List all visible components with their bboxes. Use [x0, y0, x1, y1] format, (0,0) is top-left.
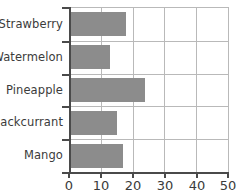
gridline-horizontal	[69, 74, 228, 75]
x-axis-tick-label: 0	[65, 178, 73, 193]
chart-title	[69, 0, 229, 5]
plot-area	[69, 8, 228, 172]
category-label: Watermelon	[0, 41, 63, 74]
plot-right-border	[228, 7, 229, 173]
category-label: Blackcurrant	[0, 106, 63, 139]
y-axis-line	[69, 7, 71, 173]
bar-blackcurrant	[69, 111, 117, 135]
x-axis-line	[68, 172, 229, 174]
y-axis-tick	[62, 41, 70, 43]
x-axis-tick-label: 10	[93, 178, 110, 193]
bar-watermelon	[69, 45, 110, 69]
y-axis-tick	[62, 7, 70, 9]
plot-top-border	[69, 7, 229, 8]
category-label: Mango	[24, 139, 63, 172]
bar-strawberry	[69, 12, 126, 36]
x-axis-tick-label: 50	[220, 178, 237, 193]
gridline-horizontal	[69, 106, 228, 107]
gridline-vertical	[196, 8, 197, 172]
bar-mango	[69, 144, 123, 168]
x-axis-tick-label: 30	[157, 178, 174, 193]
bar-chart: Strawberry Watermelon Pineapple Blackcur…	[0, 0, 242, 196]
gridline-vertical	[164, 8, 165, 172]
category-axis-labels: Strawberry Watermelon Pineapple Blackcur…	[0, 8, 66, 172]
y-axis-tick	[62, 139, 70, 141]
y-axis-tick	[62, 106, 70, 108]
category-label: Strawberry	[0, 8, 63, 41]
x-axis-tick-label: 20	[125, 178, 142, 193]
bar-pineapple	[69, 78, 145, 102]
gridline-horizontal	[69, 41, 228, 42]
x-axis-tick-label: 40	[189, 178, 206, 193]
gridline-horizontal	[69, 139, 228, 140]
y-axis-tick	[62, 74, 70, 76]
category-label: Pineapple	[6, 74, 63, 107]
